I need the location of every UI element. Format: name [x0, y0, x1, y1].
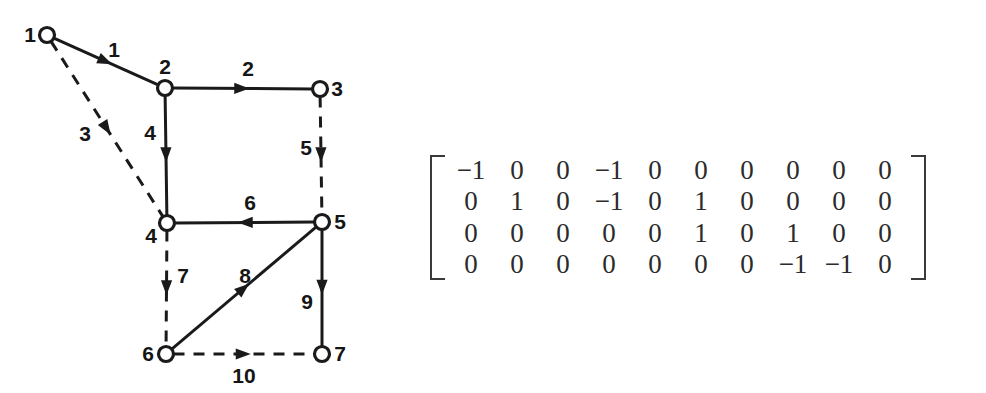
- edges-layer: [51, 38, 322, 354]
- incidence-matrix: −100−1000000010−101000000000101000000000…: [430, 150, 950, 285]
- matrix-cell: 0: [862, 218, 908, 249]
- matrix-cell: 0: [724, 155, 770, 186]
- matrix-cell: 0: [632, 218, 678, 249]
- node-label-2: 2: [159, 55, 171, 78]
- matrix-cell: −1: [448, 155, 494, 186]
- edge-label-3: 3: [79, 122, 91, 145]
- matrix-cell: 0: [770, 155, 816, 186]
- directed-graph-diagram: 123456789101234567: [0, 0, 420, 393]
- matrix-cell: 0: [724, 186, 770, 217]
- graph-node-7: [315, 347, 330, 362]
- edge-label-5: 5: [300, 136, 312, 159]
- matrix-cell: 0: [586, 249, 632, 280]
- matrix-cell: 0: [632, 186, 678, 217]
- matrix-cell: 0: [540, 249, 586, 280]
- edge-label-8: 8: [239, 264, 251, 287]
- matrix-cell: 0: [540, 155, 586, 186]
- edge-label-7: 7: [177, 264, 189, 287]
- graph-node-6: [159, 347, 174, 362]
- matrix-row: 0000000−1−10: [448, 249, 908, 280]
- graph-node-2: [158, 81, 173, 96]
- edge-label-1: 1: [108, 38, 120, 61]
- edge-label-4: 4: [144, 121, 156, 144]
- matrix-cell: 1: [678, 186, 724, 217]
- matrix-cell: 0: [862, 186, 908, 217]
- matrix-cell: 0: [678, 155, 724, 186]
- matrix-row: −100−1000000: [448, 155, 908, 186]
- matrix-row: 0000010100: [448, 218, 908, 249]
- matrix-cell: −1: [586, 155, 632, 186]
- matrix-cell: −1: [586, 186, 632, 217]
- node-label-7: 7: [334, 342, 346, 365]
- matrix-cell: 0: [816, 218, 862, 249]
- edge-label-2: 2: [242, 57, 254, 80]
- matrix-cell: 0: [816, 155, 862, 186]
- matrix-cell: 1: [678, 218, 724, 249]
- matrix-cell: 0: [494, 155, 540, 186]
- graph-node-3: [313, 82, 328, 97]
- matrix-cell: 0: [494, 249, 540, 280]
- graph-svg: 123456789101234567: [0, 0, 420, 393]
- node-label-4: 4: [145, 224, 157, 247]
- matrix-cell: 0: [770, 186, 816, 217]
- matrix-cell: 0: [632, 249, 678, 280]
- node-label-1: 1: [24, 23, 36, 46]
- nodes-layer: [40, 28, 330, 362]
- arrowhead-edge-2: [234, 83, 249, 94]
- matrix-cell: 0: [816, 186, 862, 217]
- matrix-box: −100−1000000010−101000000000101000000000…: [430, 155, 926, 280]
- node-label-5: 5: [334, 210, 346, 233]
- matrix-cell: 0: [632, 155, 678, 186]
- arrowhead-edge-7: [161, 280, 172, 295]
- matrix-cell: 0: [724, 249, 770, 280]
- matrix-cell: 0: [540, 218, 586, 249]
- matrix-row: 010−1010000: [448, 186, 908, 217]
- arrowhead-edge-10: [236, 348, 251, 359]
- arrowhead-edge-6: [238, 217, 253, 228]
- matrix-cell: 0: [540, 186, 586, 217]
- arrowhead-edge-3: [98, 119, 111, 135]
- matrix-cell: −1: [816, 249, 862, 280]
- graph-node-1: [40, 28, 55, 43]
- graph-node-5: [315, 215, 330, 230]
- matrix-cell: 0: [448, 218, 494, 249]
- edge-label-6: 6: [244, 191, 256, 214]
- edge-label-10: 10: [232, 364, 255, 387]
- matrix-cell: 0: [862, 155, 908, 186]
- matrix-right-bracket: [911, 155, 926, 280]
- matrix-cell: 0: [586, 218, 632, 249]
- arrowhead-edge-5: [315, 147, 326, 162]
- matrix-table: −100−1000000010−101000000000101000000000…: [448, 155, 908, 280]
- graph-node-4: [160, 216, 175, 231]
- figure-canvas: 123456789101234567 −100−1000000010−10100…: [0, 0, 986, 393]
- node-label-6: 6: [142, 342, 154, 365]
- arrowhead-edge-4: [160, 147, 171, 162]
- matrix-cell: 0: [448, 249, 494, 280]
- matrix-left-bracket: [430, 155, 445, 280]
- matrix-cell: −1: [770, 249, 816, 280]
- matrix-cell: 1: [494, 186, 540, 217]
- edge-label-9: 9: [301, 290, 313, 313]
- matrix-cell: 0: [494, 218, 540, 249]
- node-label-3: 3: [331, 77, 343, 100]
- matrix-cell: 0: [724, 218, 770, 249]
- arrowhead-edge-9: [316, 280, 327, 295]
- matrix-cell: 0: [678, 249, 724, 280]
- matrix-cell: 0: [448, 186, 494, 217]
- matrix-cell: 0: [862, 249, 908, 280]
- matrix-cell: 1: [770, 218, 816, 249]
